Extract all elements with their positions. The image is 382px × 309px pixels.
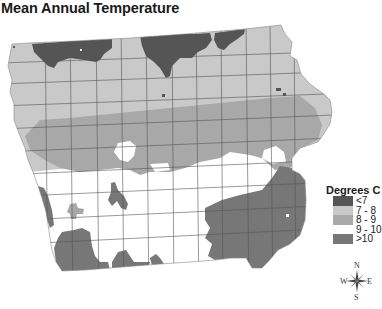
legend-swatch	[333, 206, 353, 216]
zone-lt7-spot	[13, 46, 15, 48]
zone-white-spot	[286, 214, 289, 217]
legend-item-9-10: 9 - 10	[328, 225, 382, 235]
legend-label: >10	[356, 234, 373, 244]
compass-star-icon	[346, 270, 368, 292]
legend-title: Degrees C	[326, 184, 382, 196]
zone-lt7-spot	[162, 94, 165, 97]
compass-south-label: S	[354, 293, 358, 302]
map-legend: Degrees C <7 7 - 8 8 - 9 9 - 10 >10	[328, 184, 382, 244]
compass-rose: N W E S	[340, 261, 374, 303]
compass-north-label: N	[354, 261, 360, 270]
zone-white-spot	[80, 49, 82, 51]
legend-swatch	[333, 225, 353, 235]
legend-swatch	[333, 215, 353, 225]
legend-swatch	[333, 234, 353, 244]
zone-lt7-spot	[276, 88, 281, 91]
legend-item-gt10: >10	[328, 234, 382, 244]
legend-swatch	[333, 196, 353, 206]
